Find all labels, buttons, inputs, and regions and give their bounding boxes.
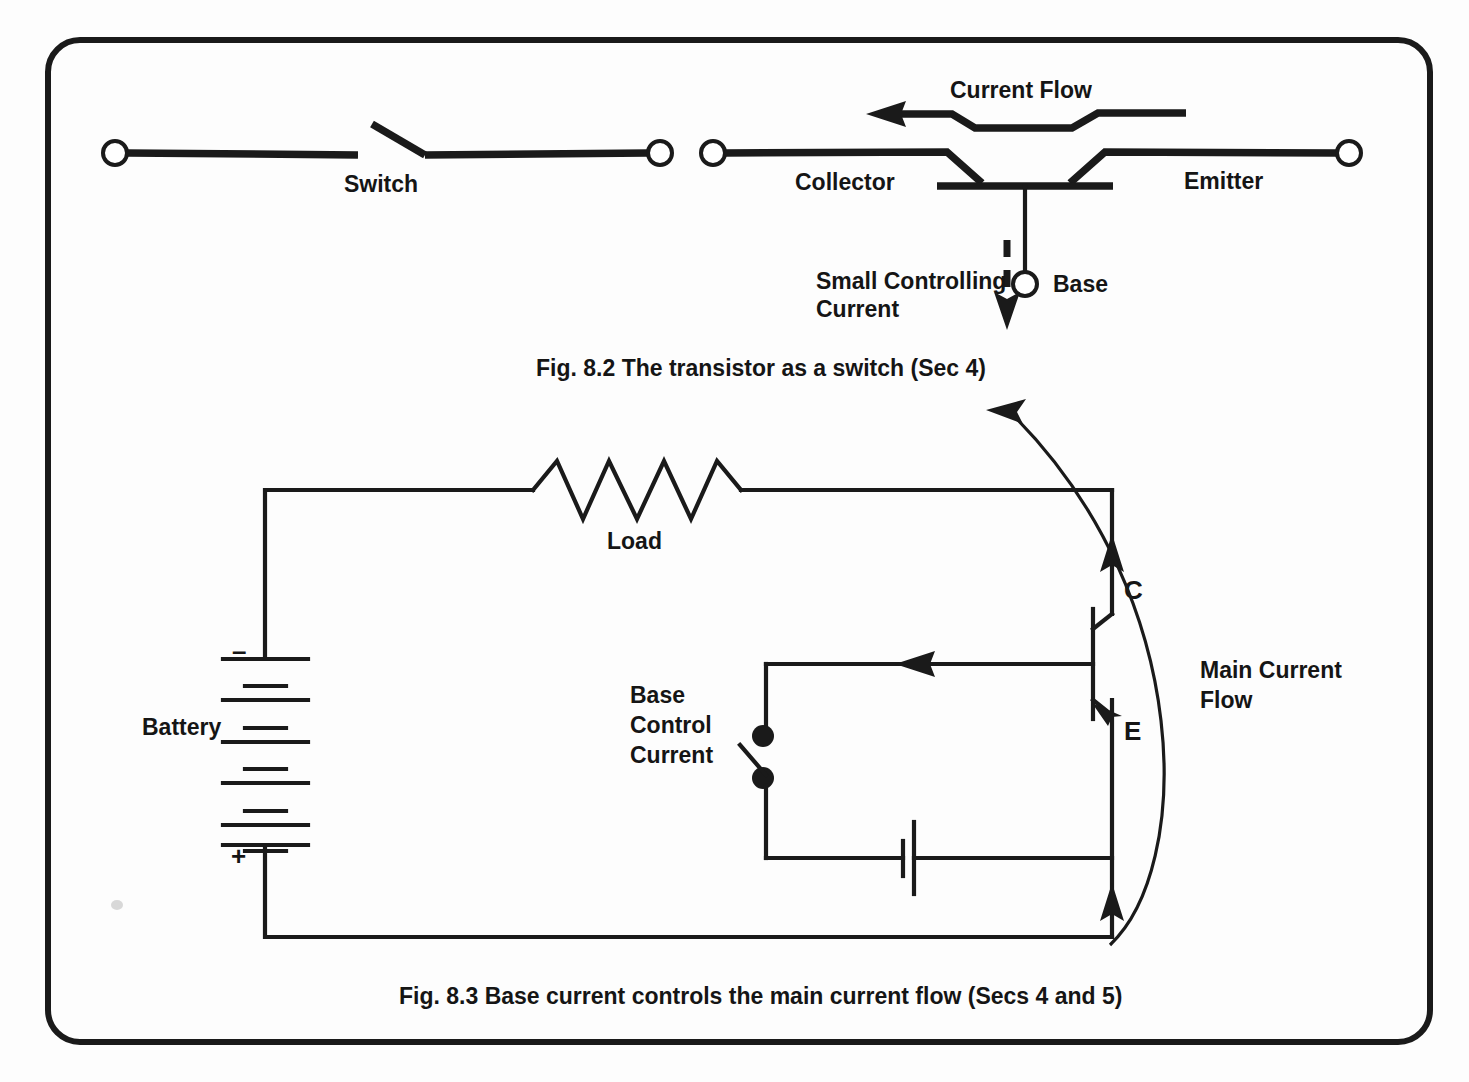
- collector-terminal-circle: [701, 141, 725, 165]
- battery-positive-sign: +: [231, 841, 246, 871]
- base-flow-arrowhead: [895, 651, 935, 677]
- main-loop-arrowheads: [895, 534, 1124, 921]
- base-control-current-line1: Base: [630, 682, 685, 708]
- figure-8-3-group: – + Battery Load C E: [142, 399, 1342, 1009]
- switch-right-terminal: [648, 141, 672, 165]
- base-switch-contact-upper: [752, 725, 774, 747]
- figure-page: Switch Base Collector Emitter: [0, 0, 1469, 1082]
- battery-symbol: – + Battery: [142, 636, 308, 871]
- emitter-terminal-circle: [1337, 141, 1361, 165]
- base-switch-blade: [740, 745, 766, 775]
- switch-left-terminal: [103, 141, 127, 165]
- main-loop-wiring: [265, 461, 1112, 937]
- figure-8-2-group: Switch Base Collector Emitter: [103, 77, 1361, 381]
- small-controlling-current-group: Small Controlling Current: [816, 240, 1020, 330]
- current-flow-arrowhead: [866, 101, 906, 127]
- figures-svg: Switch Base Collector Emitter: [0, 0, 1469, 1082]
- main-top-left-wire: [265, 490, 533, 658]
- figure-8-2-caption: Fig. 8.2 The transistor as a switch (Sec…: [536, 355, 986, 381]
- base-label: Base: [1053, 271, 1108, 297]
- main-current-flow-arrowhead: [986, 399, 1026, 424]
- battery-label: Battery: [142, 714, 221, 740]
- small-controlling-arrowhead: [994, 292, 1020, 330]
- emitter-terminal-label: E: [1124, 716, 1141, 746]
- switch-label: Switch: [344, 171, 418, 197]
- current-flow-arrow-group: Current Flow: [866, 77, 1186, 128]
- base-control-circuit: Base Control Current: [630, 664, 1112, 894]
- switch-right-wire: [425, 153, 648, 155]
- transistor-symbol-8-3: C E: [766, 575, 1143, 746]
- battery-negative-sign: –: [232, 636, 246, 666]
- load-label: Load: [607, 528, 662, 554]
- main-current-flow-line1: Main Current: [1200, 657, 1342, 683]
- current-flow-path: [889, 113, 1186, 128]
- base-terminal-circle: [1013, 272, 1037, 296]
- transistor-emitter-arrowhead: [1092, 703, 1122, 726]
- base-control-current-line3: Current: [630, 742, 713, 768]
- scan-speck: [111, 900, 123, 910]
- small-controlling-current-line1: Small Controlling: [816, 268, 1006, 294]
- main-current-flow-curve: [1014, 416, 1164, 945]
- transistor-symbol-8-2: Base Collector Emitter: [701, 141, 1361, 297]
- switch-symbol: Switch: [103, 124, 672, 197]
- base-control-current-line2: Control: [630, 712, 712, 738]
- transistor-collector-lead: [1093, 614, 1112, 629]
- small-controlling-current-line2: Current: [816, 296, 899, 322]
- emitter-label: Emitter: [1184, 168, 1263, 194]
- current-flow-label: Current Flow: [950, 77, 1092, 103]
- switch-left-wire: [127, 153, 358, 155]
- main-current-flow-line2: Flow: [1200, 687, 1252, 713]
- main-current-flow-arrow: Main Current Flow: [986, 399, 1342, 945]
- switch-blade: [372, 124, 425, 155]
- collector-label: Collector: [795, 169, 895, 195]
- figure-8-3-caption: Fig. 8.3 Base current controls the main …: [399, 983, 1122, 1009]
- load-resistor: [533, 461, 741, 519]
